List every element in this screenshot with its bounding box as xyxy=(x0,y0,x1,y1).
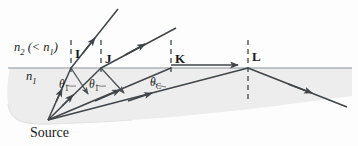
refracted-ray-arrows xyxy=(83,38,145,55)
point-label-L: L xyxy=(252,50,261,63)
angle-label-theta1-at-I: θ1 xyxy=(59,79,69,93)
point-label-J: J xyxy=(105,52,112,65)
refracted-rays-group xyxy=(71,9,176,68)
angle-label-theta1-at-J: θ1 xyxy=(89,79,99,93)
medium-upper-label: n2 (< n1) xyxy=(14,41,58,56)
source-label: Source xyxy=(30,126,69,140)
medium-lower-label: n1 xyxy=(26,70,37,85)
total-internal-reflection-diagram: n2 (< n1) n1 I J K L θ1 θ1 θC Source xyxy=(0,0,358,146)
point-label-K: K xyxy=(175,52,185,65)
arrow-refracted-I xyxy=(83,38,95,53)
angle-label-thetaC-at-K: θC xyxy=(150,77,161,91)
point-label-I: I xyxy=(75,47,80,60)
arrow-refracted-J xyxy=(125,44,145,55)
